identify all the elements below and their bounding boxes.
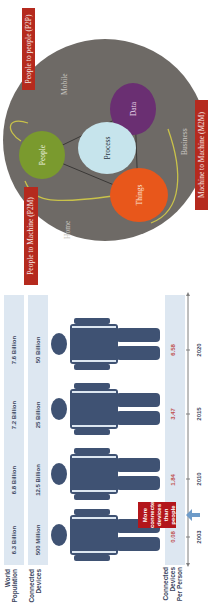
label-line: Connected	[28, 569, 35, 605]
zone-home: Home	[63, 221, 72, 239]
population-2010: 6.8 Billion	[9, 460, 19, 500]
callout-line: connected	[149, 502, 156, 528]
node-process-label: Process	[103, 137, 112, 160]
node-people-label: People	[38, 145, 47, 165]
callout-line: More	[142, 502, 149, 528]
label-line: Connected	[162, 567, 169, 605]
tag-p2m: People to Machine (P2M)	[24, 187, 38, 285]
person-icon-2015	[50, 379, 162, 439]
callout-line: than	[163, 502, 170, 528]
row-label-devices-per-person: Connected Devices Per Person	[162, 567, 183, 605]
node-process: Process	[78, 122, 136, 174]
year-2010: 2010	[196, 464, 202, 494]
year-2015: 2015	[196, 399, 202, 429]
per-person-2015: 3.47	[170, 399, 176, 429]
per-person-2020: 6.58	[170, 335, 176, 365]
row-label-connected-devices: Connected Devices	[28, 569, 42, 605]
devices-2003: 500 Million	[33, 520, 43, 560]
label-line: Devices	[35, 569, 42, 605]
node-data-label: Data	[129, 102, 138, 116]
population-2015: 7.2 Billion	[9, 395, 19, 435]
zone-business: Business	[180, 128, 189, 155]
iot-infographic: World Population Connected Devices Conne…	[0, 0, 215, 607]
population-2020: 7.6 Billion	[9, 330, 19, 370]
devices-2015: 25 Billion	[33, 395, 43, 435]
label-line: Population	[11, 569, 18, 605]
label-line: Devices	[169, 567, 176, 605]
per-person-2010: 1.84	[170, 465, 176, 495]
devices-2010: 12.5 Billion	[33, 460, 43, 500]
label-line: World	[4, 569, 11, 605]
arrow-up-icon	[186, 509, 200, 521]
node-people: People	[19, 131, 65, 179]
label-line: Per Person	[176, 567, 183, 605]
node-things: Things	[110, 168, 168, 222]
year-2003: 2003	[196, 522, 202, 552]
person-icon-2010	[50, 444, 162, 504]
tag-p2p: People to people (P2P)	[22, 8, 35, 90]
population-2003: 6.3 Billion	[9, 520, 19, 560]
row-label-world-population: World Population	[4, 569, 18, 605]
year-2020: 2020	[196, 335, 202, 365]
person-icon-2020	[50, 314, 162, 374]
node-things-label: Things	[135, 185, 144, 206]
tag-m2m: Machine to Machine (M2M)	[195, 100, 208, 210]
devices-2020: 50 Billion	[33, 330, 43, 370]
callout-line: devices	[156, 502, 163, 528]
per-person-2003: 0.08	[170, 522, 176, 552]
zone-mobile: Mobile	[60, 73, 69, 95]
